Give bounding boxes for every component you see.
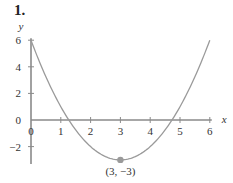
x-tick-label: 0 — [28, 125, 34, 137]
parabola-chart: 0123456−20246xy(3, −3) — [0, 0, 233, 183]
y-tick-label: 0 — [16, 114, 22, 126]
x-tick-label: 3 — [118, 125, 124, 137]
y-tick-label: 2 — [16, 87, 22, 99]
x-tick-label: 6 — [207, 125, 213, 137]
x-tick-label: 4 — [147, 125, 153, 137]
y-tick-label: −2 — [9, 141, 21, 153]
vertex-point — [117, 157, 123, 163]
y-tick-label: 4 — [16, 61, 22, 73]
parabola-curve — [31, 40, 210, 160]
y-tick-label: 6 — [16, 34, 22, 46]
x-tick-label: 1 — [58, 125, 64, 137]
x-axis-label: x — [221, 113, 227, 125]
x-tick-label: 2 — [88, 125, 94, 137]
vertex-label: (3, −3) — [105, 165, 135, 178]
y-axis-label: y — [18, 20, 24, 32]
x-tick-label: 5 — [177, 125, 183, 137]
